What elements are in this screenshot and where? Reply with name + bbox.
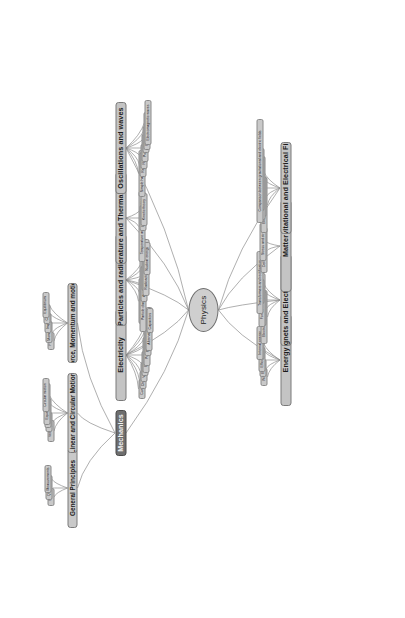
node-label: Force, Momentum and motion xyxy=(69,283,76,363)
leaf-node-electromagnetic-waves[interactable]: Electromagnetic waves xyxy=(144,100,151,146)
branch-node-mechanics[interactable]: Mechanics xyxy=(115,410,126,456)
node-label: General Principles xyxy=(69,460,76,516)
node-label: Measurements xyxy=(46,467,50,490)
node-label: Comparison between gravitational and ele… xyxy=(258,131,262,212)
node-label: Oscillations and waves xyxy=(116,107,124,188)
root-node-physics[interactable]: Physics xyxy=(188,288,218,332)
branch-node-oscillations-and-waves[interactable]: Oscillations and waves xyxy=(115,102,126,194)
node-label: Equilibrium xyxy=(43,296,47,313)
node-label: Energy xyxy=(281,348,289,373)
leaf-node-comparison-between-gravitational-and-electric-fields[interactable]: Comparison between gravitational and ele… xyxy=(256,119,263,224)
node-label: Linear and Circular Motion xyxy=(69,373,76,453)
node-label: Mechanics xyxy=(116,414,124,452)
leaf-node-capacitors[interactable]: Capacitors xyxy=(146,309,153,334)
leaf-node-kinetic-theory[interactable]: Kinetic theory xyxy=(140,193,147,226)
sub-branch-node-general-principles[interactable]: General Principles xyxy=(67,448,77,528)
node-label: Gravitational and Electrical Fields xyxy=(281,142,289,234)
sub-branch-node-linear-and-circular-motion[interactable]: Linear and Circular Motion xyxy=(67,373,77,453)
node-label: Electromagnetic waves xyxy=(146,105,150,141)
node-label: Electricity xyxy=(116,337,124,372)
node-label: Capacitors xyxy=(148,313,152,330)
leaf-node-circular-motion[interactable]: Circular motion xyxy=(42,378,49,413)
root-label: Physics xyxy=(199,296,207,325)
node-label: Circular motion xyxy=(43,383,47,407)
sub-branch-node-force-momentum-and-motion[interactable]: Force, Momentum and motion xyxy=(67,283,77,363)
mindmap-canvas: PhysicsMechanicsGeneral PrinciplesUnitsQ… xyxy=(0,0,405,618)
node-label: Kinetic theory xyxy=(142,199,146,220)
branch-node-gravitational-and-electrical-fields[interactable]: Gravitational and Electrical Fields xyxy=(280,142,291,234)
leaf-node-equilibrium[interactable]: Equilibrium xyxy=(42,292,49,319)
leaf-node-measurements[interactable]: Measurements xyxy=(44,465,51,494)
node-label: Matter xyxy=(281,235,289,257)
